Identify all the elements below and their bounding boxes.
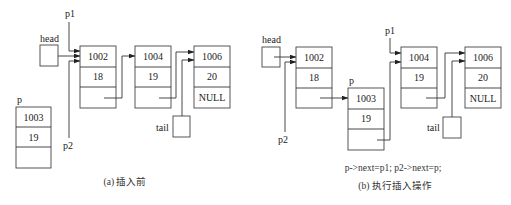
p1-label: p1	[65, 8, 75, 19]
node-value: 20	[478, 72, 488, 83]
head-label: head	[40, 33, 59, 44]
diagram-a: head p1 p2 1002 18 1004 19	[16, 8, 230, 188]
node-addr: 1004	[143, 51, 163, 62]
node-value: 18	[309, 72, 319, 83]
node-next-null: NULL	[470, 93, 497, 104]
tail-arrow	[452, 61, 465, 117]
node-p-1003: 1003 19	[348, 88, 384, 150]
node-addr: 1002	[88, 51, 108, 62]
caption-a: (a) 插入前	[104, 176, 147, 188]
p2-label: p2	[63, 140, 73, 151]
node-value: 20	[207, 71, 217, 82]
tail-label: tail	[427, 122, 440, 133]
node-1002: 1002 18	[80, 46, 116, 108]
tail-pointer-box	[443, 117, 461, 138]
node-addr: 1003	[356, 93, 376, 104]
p-label: p	[349, 75, 354, 86]
node-next-null: NULL	[199, 92, 226, 103]
p2-arrow	[285, 62, 296, 132]
node-value: 19	[414, 72, 424, 83]
p1-arrow	[390, 38, 401, 53]
caption-b: (b) 执行插入操作	[358, 180, 431, 192]
tail-pointer-box	[173, 116, 190, 137]
node-addr: 1003	[24, 112, 44, 123]
node-addr: 1006	[473, 52, 493, 63]
linked-list-insertion-diagram: head p1 p2 1002 18 1004 19	[0, 0, 511, 205]
node-value: 18	[93, 71, 103, 82]
node-addr: 1002	[304, 52, 324, 63]
p1-label: p1	[385, 25, 395, 36]
node-addr: 1004	[409, 52, 429, 63]
node-p-1003: 1003 19	[16, 107, 51, 168]
tail-arrow	[182, 60, 194, 116]
node-1006: 1006 20 NULL	[465, 47, 501, 108]
p2-arrow	[69, 61, 80, 138]
node-addr: 1006	[202, 51, 222, 62]
tail-label: tail	[156, 122, 169, 133]
node-1004: 1004 19	[401, 47, 437, 108]
head-pointer-box	[40, 45, 58, 66]
head-label: head	[262, 34, 281, 45]
diagram-b: head p2 1002 18 p 1003 19 p1	[262, 25, 501, 192]
node-value: 19	[29, 132, 39, 143]
node-value: 19	[148, 71, 158, 82]
code-statement: p->next=p1; p2->next=p;	[345, 163, 442, 173]
p2-label: p2	[278, 134, 288, 145]
p-label: p	[17, 94, 22, 105]
node-1004: 1004 19	[135, 46, 171, 108]
p1-arrow	[69, 22, 80, 51]
node-value: 19	[361, 113, 371, 124]
node-1002: 1002 18	[296, 47, 332, 108]
node-1006: 1006 20 NULL	[194, 46, 230, 108]
